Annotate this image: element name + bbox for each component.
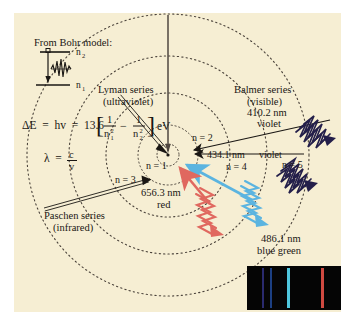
wavelength-denominator: v	[69, 161, 75, 172]
energy-equation-lhs: ΔE = hv = 13.6	[22, 119, 104, 131]
orbit-label-n1: n = 1	[146, 160, 167, 171]
emission-434-color: violet	[259, 149, 282, 160]
balmer-series-label: Balmer series	[234, 84, 291, 95]
orbit-label-n4: n = 4	[226, 161, 247, 172]
spectrum-inset	[247, 266, 341, 310]
bohr-inset-n1-label: n	[76, 80, 81, 90]
figure-root: ΔE = hv = 13.6 [ 1 n 1 2 − 1 n 2 2 ] eV …	[0, 0, 341, 323]
bracket-open: [	[96, 112, 104, 138]
term1-den-sup: 2	[111, 127, 114, 134]
term2-denominator: n	[133, 128, 139, 139]
emission-656-wavelength: 656.3 nm	[141, 187, 181, 198]
paschen-series-label: Paschen series	[44, 210, 105, 221]
bohr-inset-heading: From Bohr model:	[34, 37, 112, 48]
photon-squiggle-red-656	[196, 188, 224, 237]
term1-den-sub: 1	[111, 134, 114, 141]
photon-squiggle-blue-486	[241, 181, 269, 227]
energy-equation: ΔE = hv = 13.6 [ 1 n 1 2 − 1 n 2 2 ] eV	[22, 112, 171, 141]
term2-den-sub: 2	[140, 134, 143, 141]
paschen-series-qualifier: (infrared)	[53, 222, 94, 234]
term2-den-sup: 2	[140, 127, 143, 134]
equation-minus: −	[120, 119, 127, 133]
bohr-diagram-svg: ΔE = hv = 13.6 [ 1 n 1 2 − 1 n 2 2 ] eV …	[14, 13, 341, 312]
bohr-inset-n2-label: n	[76, 47, 81, 57]
spectral-line-656	[321, 268, 324, 308]
bracket-close: ]	[147, 112, 155, 138]
orbit-label-n3: n = 3	[115, 174, 136, 185]
spectral-line-410	[262, 268, 264, 308]
spectral-line-434	[270, 268, 272, 308]
emission-410-color: violet	[257, 118, 281, 129]
lyman-series-label: Lyman series	[98, 84, 154, 95]
emission-434-wavelength: 434.1 nm	[207, 149, 245, 160]
bohr-model-inset	[36, 49, 71, 86]
emission-486-wavelength: 486.1 nm	[261, 233, 301, 244]
diagram-panel: ΔE = hv = 13.6 [ 1 n 1 2 − 1 n 2 2 ] eV …	[14, 13, 341, 312]
lyman-series-qualifier: (ultraviolet)	[103, 96, 154, 108]
emission-656-color: red	[157, 199, 171, 210]
lyman-vertical-arrow	[165, 15, 170, 154]
term1-denominator: n	[104, 128, 110, 139]
bohr-inset-n1-subscript: 1	[82, 85, 85, 92]
spectral-line-486	[287, 268, 290, 308]
wavelength-lhs: λ =	[44, 152, 62, 164]
photon-squiggle-violet-410	[296, 116, 336, 148]
photon-wave-icon	[51, 59, 71, 77]
emission-410-wavelength: 410.2 nm	[247, 107, 287, 118]
energy-equation-units: eV	[157, 120, 171, 132]
term2-numerator: 1	[136, 114, 141, 125]
orbit-label-n5: n = 5	[282, 159, 303, 170]
bohr-inset-n2-subscript: 2	[82, 52, 85, 59]
orbit-label-n2: n = 2	[192, 132, 213, 143]
wavelength-equation: λ = c v	[44, 149, 77, 172]
term1-numerator: 1	[107, 114, 112, 125]
spectrum-background	[247, 266, 341, 310]
emission-486-color: blue green	[257, 245, 302, 256]
wavelength-numerator: c	[69, 149, 74, 160]
